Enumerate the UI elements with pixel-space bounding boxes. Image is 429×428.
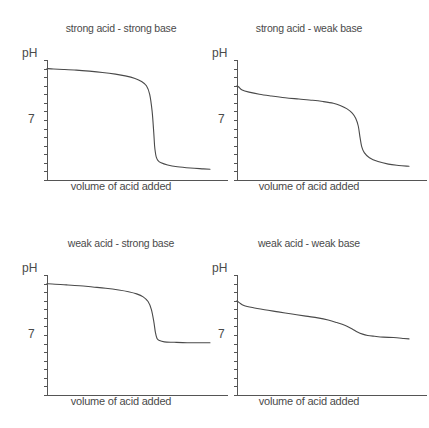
y-tick-label: 7: [28, 328, 35, 340]
y-tick-label: 7: [28, 113, 35, 125]
x-axis-label: volume of acid added: [233, 180, 385, 192]
titration-curve: [237, 86, 409, 167]
plot-area: [47, 275, 230, 407]
y-tick-label: 7: [218, 328, 225, 340]
titration-curve: [237, 301, 409, 339]
x-axis-label: volume of acid added: [45, 180, 197, 192]
chart-title: strong acid - strong base: [45, 22, 197, 34]
chart-title: weak acid - weak base: [233, 237, 385, 249]
plot-area: [47, 60, 230, 192]
x-axis-label: volume of acid added: [233, 395, 385, 407]
plot-area: [237, 60, 429, 192]
chart-title: strong acid - weak base: [233, 22, 385, 34]
x-axis-label: volume of acid added: [45, 395, 197, 407]
chart-title: weak acid - strong base: [45, 237, 197, 249]
y-axis-label: pH: [212, 262, 227, 274]
y-tick-label: 7: [218, 113, 225, 125]
y-axis-label: pH: [22, 47, 37, 59]
y-axis-label: pH: [212, 47, 227, 59]
titration-curve: [47, 284, 210, 343]
titration-curve: [47, 69, 210, 170]
plot-area: [237, 275, 429, 407]
y-axis-label: pH: [22, 262, 37, 274]
